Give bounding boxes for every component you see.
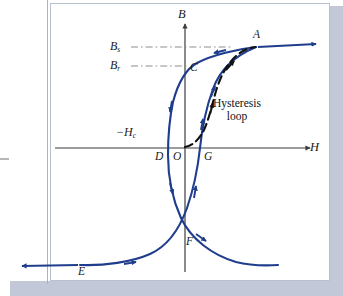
point-label-f: F (186, 236, 193, 248)
hysteresis-loop-annotation-line2: loop (213, 110, 261, 123)
h-axis-label: H (310, 141, 319, 154)
saturation-tail-right (258, 44, 316, 47)
hc-label: −Hc (116, 126, 136, 139)
origin-label: O (173, 151, 181, 163)
point-label-e: E (78, 266, 85, 278)
br-label: Br (110, 59, 120, 72)
bs-label-sub: s (117, 45, 120, 54)
bs-label: Bs (110, 40, 120, 53)
hysteresis-loop-annotation: Hysteresis loop (213, 97, 261, 123)
saturation-tail-left (22, 265, 78, 266)
hc-label-text: −H (116, 125, 133, 139)
br-label-sub: r (117, 64, 120, 73)
point-label-a: A (253, 29, 260, 41)
hysteresis-loop-annotation-line1: Hysteresis (213, 97, 261, 110)
hysteresis-loop-figure: H B O Bs Br −Hc A C D E F G Hysteresis l… (0, 0, 343, 296)
hysteresis-plot-svg (0, 0, 343, 296)
hc-label-sub: c (133, 131, 136, 140)
b-axis-label: B (178, 8, 186, 21)
point-label-g: G (204, 151, 212, 163)
point-label-d: D (155, 151, 163, 163)
point-label-c: C (190, 62, 198, 74)
